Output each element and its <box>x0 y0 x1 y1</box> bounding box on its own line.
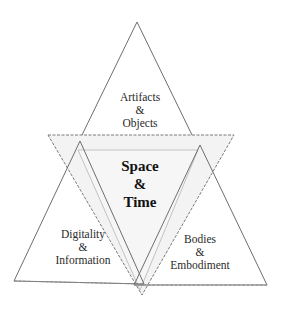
diagram-canvas: Artifacts & Objects Space & Time Digital… <box>0 0 281 312</box>
left-label-line1: Digitality <box>40 228 126 241</box>
top-label-line2: & <box>96 104 184 117</box>
right-label-line2: & <box>160 246 240 259</box>
center-label-line2: & <box>100 175 180 193</box>
center-label-line3: Time <box>100 193 180 211</box>
left-label: Digitality & Information <box>40 228 126 267</box>
top-label-line1: Artifacts <box>96 91 184 104</box>
center-label-line1: Space <box>100 157 180 175</box>
right-label-line3: Embodiment <box>160 259 240 272</box>
top-label-line3: Objects <box>96 117 184 130</box>
right-label: Bodies & Embodiment <box>160 233 240 272</box>
left-label-line3: Information <box>40 254 126 267</box>
top-label: Artifacts & Objects <box>96 91 184 130</box>
center-label: Space & Time <box>100 157 180 211</box>
left-label-line2: & <box>40 241 126 254</box>
right-label-line1: Bodies <box>160 233 240 246</box>
